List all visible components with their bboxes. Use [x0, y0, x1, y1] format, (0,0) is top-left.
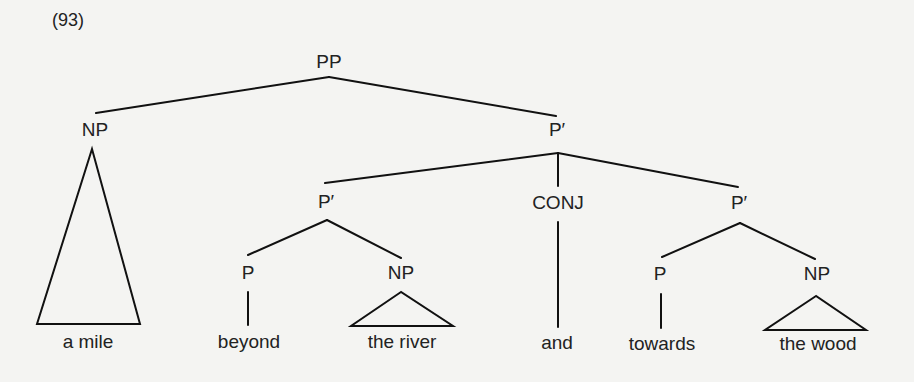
constituent-triangle — [37, 149, 140, 324]
node-np-right: NP — [804, 263, 830, 285]
constituent-triangle — [765, 296, 866, 330]
node-np-specifier: NP — [82, 119, 108, 141]
node-pbar-left: P′ — [318, 191, 334, 213]
branch-line — [740, 223, 815, 259]
node-p-left: P — [242, 262, 255, 284]
leaf-the-river: the river — [368, 331, 437, 353]
constituent-triangle — [351, 292, 453, 326]
branch-line — [662, 223, 740, 257]
node-np-left: NP — [388, 262, 414, 284]
node-p-right: P — [654, 263, 667, 285]
leaf-and: and — [541, 332, 573, 354]
leaf-beyond: beyond — [218, 331, 280, 353]
branch-line — [248, 220, 327, 255]
leaf-the-wood: the wood — [779, 333, 856, 355]
leaf-a-mile: a mile — [63, 331, 114, 353]
branch-line — [329, 77, 556, 116]
node-pbar-right: P′ — [731, 192, 747, 214]
node-pp-root: PP — [316, 51, 341, 73]
node-conj: CONJ — [532, 192, 584, 214]
tree-branches — [0, 0, 914, 382]
leaf-towards: towards — [629, 333, 696, 355]
branch-line — [327, 220, 401, 258]
branch-line — [325, 153, 558, 183]
branch-line — [96, 77, 329, 113]
branch-line — [558, 153, 738, 187]
node-pbar-top: P′ — [549, 119, 565, 141]
